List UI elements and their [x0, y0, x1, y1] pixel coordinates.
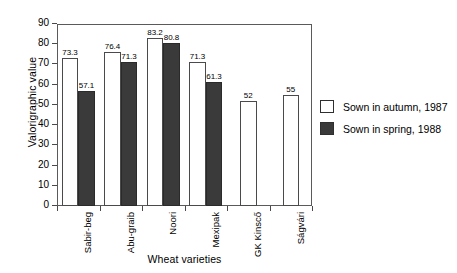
- bar-value-label: 57.1: [79, 81, 95, 90]
- bar-spring: 71.3: [121, 62, 138, 206]
- x-axis-category-label: Abu-graib: [125, 212, 136, 253]
- bar-autumn: 71.3: [189, 62, 206, 206]
- bar-autumn: 73.3: [62, 58, 79, 206]
- bar-value-label: 55: [286, 85, 295, 94]
- x-axis-tick-mark: [312, 206, 313, 211]
- x-axis-category-label: Mexipak: [210, 212, 221, 247]
- bar-spring: 57.1: [78, 91, 95, 206]
- legend-swatch-autumn: [320, 100, 334, 113]
- y-axis-tick-label: 60: [38, 78, 49, 89]
- x-axis-tick-mark: [57, 206, 58, 211]
- x-axis-category-label: Ságvári: [295, 212, 306, 244]
- y-axis-tick-label: 30: [38, 138, 49, 149]
- y-axis-tick-label: 90: [38, 17, 49, 28]
- y-axis-tick-label: 40: [38, 118, 49, 129]
- bar-value-label: 76.4: [105, 42, 121, 51]
- legend-swatch-spring: [320, 122, 334, 135]
- valorigraphic-value-bar-chart: Valorigraphic value 0102030405060708090 …: [0, 0, 457, 273]
- y-axis-tick-label: 50: [38, 98, 49, 109]
- bars-layer: 73.357.176.471.383.280.871.361.35255: [57, 24, 312, 206]
- bar-value-label: 83.2: [147, 28, 163, 37]
- bar-autumn: 52: [240, 101, 257, 206]
- bar-value-label: 61.3: [206, 72, 222, 81]
- x-axis-tick-mark: [100, 206, 101, 211]
- y-axis-tick-label: 80: [38, 37, 49, 48]
- bar-value-label: 71.3: [190, 52, 206, 61]
- y-axis-tick-label: 70: [38, 57, 49, 68]
- x-axis-title: Wheat varieties: [57, 253, 312, 265]
- y-axis-tick-label: 20: [38, 159, 49, 170]
- y-axis-tick-label: 10: [38, 179, 49, 190]
- legend-item: Sown in autumn, 1987: [320, 100, 454, 113]
- legend-item-label: Sown in autumn, 1987: [343, 101, 448, 113]
- bar-autumn: 55: [283, 95, 300, 206]
- x-axis-tick-mark: [142, 206, 143, 211]
- chart-legend: Sown in autumn, 1987Sown in spring, 1988: [320, 100, 454, 144]
- bar-value-label: 80.8: [164, 33, 180, 42]
- bar-spring: 61.3: [206, 82, 223, 206]
- bar-value-label: 73.3: [62, 48, 78, 57]
- x-axis-tick-mark: [270, 206, 271, 211]
- bar-value-label: 71.3: [121, 52, 137, 61]
- y-axis-tick-label: 0: [43, 199, 49, 210]
- bar-spring: 80.8: [163, 43, 180, 206]
- bar-autumn: 83.2: [147, 38, 164, 206]
- bar-value-label: 52: [244, 91, 253, 100]
- bar-autumn: 76.4: [104, 52, 121, 206]
- x-axis-tick-mark: [185, 206, 186, 211]
- x-axis-category-label: Sabir-beg: [82, 212, 93, 253]
- legend-item-label: Sown in spring, 1988: [343, 123, 441, 135]
- y-axis-title: Valorigraphic value: [26, 12, 38, 192]
- x-axis-category-label: GK Kinscő: [252, 212, 263, 257]
- x-axis-tick-mark: [227, 206, 228, 211]
- x-axis-category-label: Noori: [167, 212, 178, 235]
- legend-item: Sown in spring, 1988: [320, 122, 454, 135]
